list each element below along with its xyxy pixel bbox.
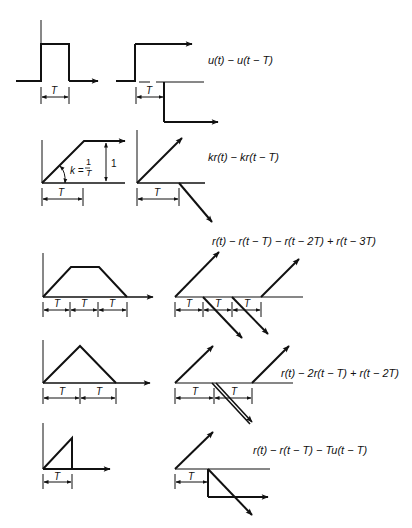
row-3-left-T-label-1: T bbox=[54, 298, 60, 309]
row-1-left-T-label: T bbox=[51, 85, 57, 96]
row-3-left-T-label-2: T bbox=[81, 298, 87, 309]
row-3-right-T-label-1: T bbox=[186, 298, 192, 309]
row-4-left-T-label-1: T bbox=[59, 386, 65, 397]
row-3-left-T-label-3: T bbox=[109, 298, 115, 309]
row-2-height-label: 1 bbox=[111, 158, 117, 169]
row-4-equation: r(t) − 2r(t − T) + r(t − 2T) bbox=[281, 367, 399, 379]
row-2-right-T-label: T bbox=[154, 187, 160, 198]
row-2-slope-numerator: 1 bbox=[86, 157, 91, 167]
row-2-equation: kr(t) − kr(t − T) bbox=[208, 151, 279, 163]
row-3-right-ramps bbox=[175, 252, 303, 338]
row-3-equation: r(t) − r(t − T) − r(t − 2T) + r(t − 3T) bbox=[212, 235, 376, 247]
row-5-right-T-label: T bbox=[188, 471, 194, 482]
row-3-right-T-label-2: T bbox=[215, 298, 221, 309]
row-2-left-T-label: T bbox=[58, 187, 64, 198]
row-5-left-T-label: T bbox=[54, 471, 60, 482]
row-4-left-T-label-2: T bbox=[96, 386, 102, 397]
row-2-slope-denominator: T bbox=[86, 168, 92, 178]
row-1-right-steps bbox=[116, 44, 218, 122]
row-4-right-T-label-1: T bbox=[192, 386, 198, 397]
row-2-right-ramps bbox=[137, 130, 212, 222]
row-4-right-ramps bbox=[175, 346, 293, 424]
row-1-equation: u(t) − u(t − T) bbox=[208, 54, 273, 66]
row-2-slope-k: k = bbox=[70, 165, 84, 176]
row-5-equation: r(t) − r(t − T) − Tu(t − T) bbox=[253, 444, 367, 456]
row-3-right-T-label-3: T bbox=[244, 298, 250, 309]
row-4-right-T-label-2: T bbox=[231, 386, 237, 397]
row-1-right-T-label: T bbox=[146, 85, 152, 96]
